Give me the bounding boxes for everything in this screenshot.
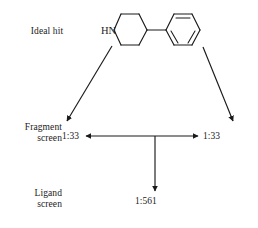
ratio-ligand: 1:561 bbox=[135, 196, 157, 207]
fragment-screen-figure: HN Ideal hit Fragment screen Ligand scre… bbox=[0, 0, 258, 228]
fragment-screen-label: Fragment screen bbox=[2, 122, 62, 144]
ratio-left-fragment: 1:33 bbox=[62, 131, 79, 142]
nitrogen-atom-label: HN bbox=[101, 25, 116, 37]
ligand-screen-label: Ligand screen bbox=[2, 188, 62, 210]
arrow-to-left-fragment bbox=[67, 46, 112, 121]
ratio-right-fragment: 1:33 bbox=[203, 131, 220, 142]
ideal-hit-label: Ideal hit bbox=[8, 26, 86, 37]
arrow-to-right-fragment bbox=[203, 47, 233, 121]
